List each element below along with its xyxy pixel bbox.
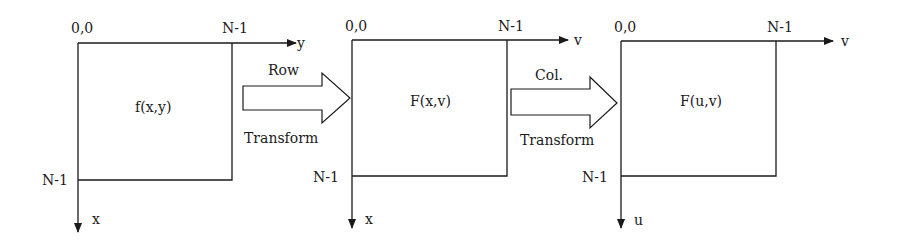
panel-row-transformed: 0,0 N-1 N-1 v x F(x,v) — [313, 18, 582, 228]
arrow-bottom-label: Transform — [244, 130, 318, 146]
block-arrow-icon — [511, 77, 617, 128]
vertical-axis-label: u — [634, 212, 643, 228]
vertical-axis-label: x — [365, 211, 373, 227]
origin-label: 0,0 — [71, 20, 93, 36]
function-label: f(x,y) — [135, 99, 171, 115]
bottom-left-label: N-1 — [42, 172, 68, 188]
vertical-axis-label: x — [92, 211, 100, 227]
panel-spatial: 0,0 N-1 N-1 y x f(x,y) — [42, 20, 305, 232]
row-transform-arrow: Row Transform — [243, 62, 350, 146]
col-transform-arrow: Col. Transform — [511, 67, 617, 148]
origin-label: 0,0 — [345, 18, 367, 34]
block-arrow-icon — [243, 73, 350, 123]
arrow-top-label: Col. — [535, 67, 563, 83]
arrow-top-label: Row — [268, 62, 299, 78]
horizontal-axis-label: y — [296, 35, 305, 51]
origin-label: 0,0 — [614, 19, 636, 35]
bottom-left-label: N-1 — [313, 169, 339, 185]
function-label: F(x,v) — [410, 93, 451, 109]
top-right-label: N-1 — [767, 19, 793, 35]
transform-diagram: 0,0 N-1 N-1 y x f(x,y) Row Transform 0,0… — [0, 0, 897, 242]
panel-frequency: 0,0 N-1 N-1 v u F(u,v) — [582, 19, 849, 228]
arrow-bottom-label: Transform — [520, 132, 594, 148]
function-label: F(u,v) — [680, 93, 722, 109]
bottom-left-label: N-1 — [582, 169, 608, 185]
horizontal-axis-label: v — [840, 33, 849, 49]
top-right-label: N-1 — [498, 18, 524, 34]
horizontal-axis-label: v — [573, 32, 582, 48]
top-right-label: N-1 — [222, 20, 248, 36]
